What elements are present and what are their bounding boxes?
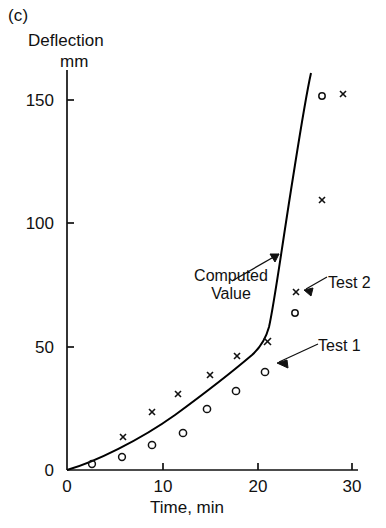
- annotation-computed-value: Computed Value: [185, 267, 277, 304]
- annotation-test2: Test 2: [328, 274, 371, 292]
- test2-point: [207, 372, 213, 378]
- annotation-computed-value-line2: Value: [185, 285, 277, 303]
- test1-point: [261, 368, 268, 375]
- test2-point: [175, 391, 181, 397]
- test2-point: [264, 338, 271, 345]
- test2-leader: [306, 277, 327, 289]
- test1-point: [119, 454, 126, 461]
- test1-point: [179, 429, 186, 436]
- test2-point: [149, 409, 155, 415]
- test1-point: [203, 405, 210, 412]
- test1-point: [292, 310, 298, 316]
- test1-point: [148, 441, 155, 448]
- test1-point: [232, 387, 239, 394]
- test2-point: [340, 91, 346, 97]
- test2-point: [120, 434, 126, 440]
- test2-point: [319, 197, 325, 203]
- chart-canvas: [0, 0, 386, 528]
- test1-arrowhead: [277, 360, 288, 368]
- test2-arrowhead: [304, 288, 313, 296]
- annotation-computed-value-line1: Computed: [185, 267, 277, 285]
- test2-point: [293, 289, 299, 295]
- series-test2-markers: [120, 91, 346, 440]
- test2-point: [234, 353, 240, 359]
- test1-point: [319, 93, 325, 99]
- annotation-test1: Test 1: [318, 337, 361, 355]
- test1-leader: [279, 344, 318, 362]
